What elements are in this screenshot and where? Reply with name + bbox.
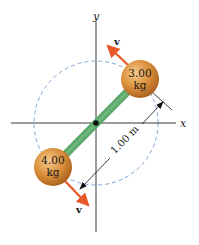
y-axis-label: y <box>92 10 100 23</box>
mass-lower-left: 4.00 kg <box>34 148 72 186</box>
velocity-label-lower: v <box>75 204 83 215</box>
rotating-rod-diagram: y x 1.00 m v v 3.00 kg 4.00 kg <box>0 0 199 245</box>
mass-upper-right: 3.00 kg <box>121 60 159 98</box>
x-axis-label: x <box>180 117 187 130</box>
dimension-label: 1.00 m <box>108 123 141 156</box>
mass-lower-value: 4.00 <box>41 154 64 166</box>
dimension-extension-line <box>152 92 172 110</box>
mass-lower-unit: kg <box>46 166 59 178</box>
pivot-point <box>93 120 99 126</box>
velocity-label-upper: v <box>113 36 121 47</box>
mass-upper-unit: kg <box>133 79 146 91</box>
dimension-line-upper <box>142 102 163 124</box>
velocity-arrow-upper <box>108 46 129 66</box>
mass-upper-value: 3.00 <box>128 67 151 79</box>
